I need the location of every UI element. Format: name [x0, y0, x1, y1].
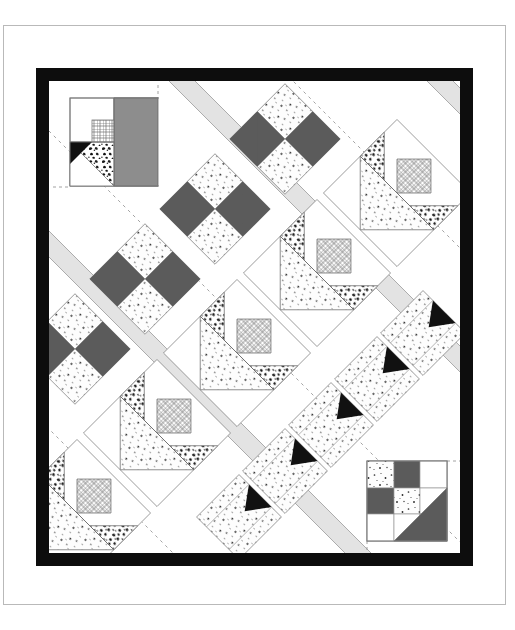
patch-speckle	[367, 461, 394, 488]
corner-grid-square	[92, 120, 114, 142]
patch-white	[420, 461, 447, 488]
quilt-diagram-page	[0, 0, 515, 630]
quilt-artwork	[49, 81, 460, 553]
patch-dark	[394, 461, 420, 488]
patch-dark	[367, 488, 394, 514]
patch-white	[367, 514, 394, 541]
quilt-outer-border	[36, 68, 473, 566]
corner-gray-body	[114, 98, 158, 186]
quilt-interior	[49, 81, 460, 553]
quilt-svg-canvas	[49, 81, 460, 553]
corner-detail-block-bottom-right	[367, 461, 460, 553]
patch-speckle	[394, 488, 420, 514]
